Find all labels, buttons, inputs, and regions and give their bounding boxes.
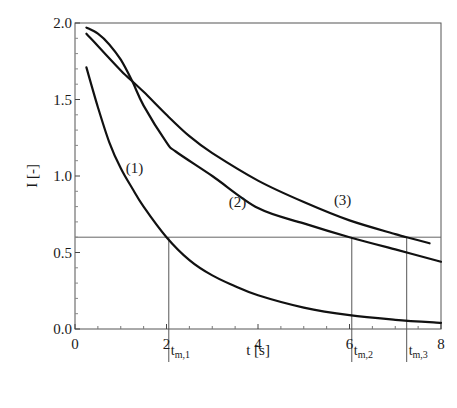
- curve-label: (1): [126, 160, 144, 177]
- plot-frame: [75, 23, 441, 329]
- axis-labels: 024680.00.51.01.52.0t [s]I [-]: [24, 15, 445, 358]
- x-tick-label: 0: [71, 336, 79, 352]
- y-tick-label: 1.0: [53, 168, 72, 184]
- series-line-2: [86, 28, 441, 262]
- chart: 024680.00.51.01.52.0t [s]I [-] (1)(2)(3)…: [0, 0, 457, 408]
- y-tick-label: 2.0: [53, 15, 72, 31]
- x-tick-label: 6: [346, 336, 354, 352]
- plot-border: [75, 23, 441, 329]
- x-tick-label: 8: [437, 336, 445, 352]
- series-line-1: [86, 67, 441, 323]
- series-line-3: [86, 34, 429, 244]
- x-axis-title: t [s]: [246, 342, 270, 358]
- curve-label: (2): [229, 194, 247, 211]
- y-tick-label: 0.5: [53, 245, 72, 261]
- y-tick-label: 1.5: [53, 92, 72, 108]
- marker-label: tm,2: [354, 343, 373, 360]
- marker-subscript: m,3: [413, 349, 428, 360]
- y-tick-label: 0.0: [53, 321, 72, 337]
- marker-subscript: m,2: [358, 349, 373, 360]
- time-markers: tm,1tm,2tm,3: [171, 343, 428, 360]
- curve-label: (3): [334, 192, 352, 209]
- marker-label: tm,3: [409, 343, 428, 360]
- marker-label: tm,1: [171, 343, 190, 360]
- curve-annotations: (1)(2)(3): [126, 160, 352, 211]
- x-tick-label: 2: [163, 336, 171, 352]
- marker-subscript: m,1: [175, 349, 190, 360]
- axis-ticks: [75, 23, 441, 329]
- y-axis-title: I [-]: [24, 164, 40, 188]
